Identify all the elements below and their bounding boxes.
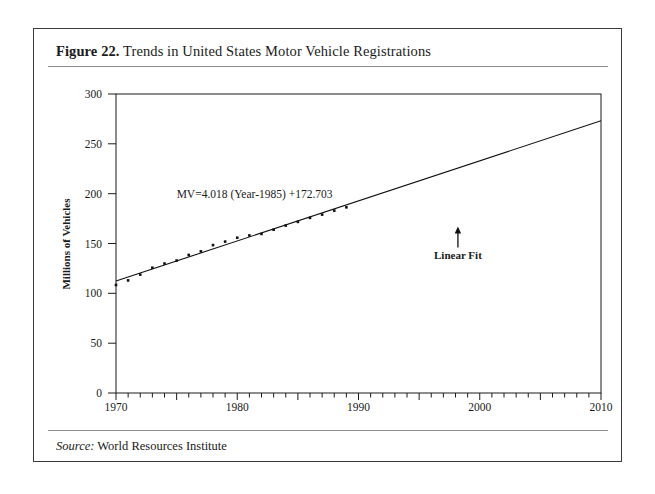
- data-point: [200, 250, 203, 253]
- y-tick-label-250: 250: [85, 138, 103, 150]
- linear-fit-annotation: Linear Fit: [434, 227, 482, 262]
- y-tick-label-300: 300: [85, 88, 103, 100]
- x-tick-label-1990: 1990: [347, 401, 370, 413]
- regression-equation-label: MV=4.018 (Year-1985) +172.703: [177, 188, 333, 201]
- y-tick-label-100: 100: [85, 287, 103, 299]
- x-tick-label-1980: 1980: [226, 401, 249, 413]
- data-point: [224, 240, 227, 243]
- data-point: [236, 236, 239, 239]
- y-tick-label-50: 50: [91, 337, 103, 349]
- x-tick-label-2010: 2010: [590, 401, 613, 413]
- data-point: [345, 206, 348, 209]
- data-point: [321, 213, 324, 216]
- data-point: [151, 266, 154, 269]
- data-point: [115, 284, 118, 287]
- y-tick-label-150: 150: [85, 238, 103, 250]
- data-point: [139, 273, 142, 276]
- data-point: [260, 233, 263, 236]
- arrowhead-icon: [455, 227, 461, 234]
- data-point: [333, 209, 336, 212]
- data-point: [284, 224, 287, 227]
- x-tick-label-1970: 1970: [105, 401, 128, 413]
- source-label: Source:: [56, 439, 94, 453]
- data-point: [175, 259, 178, 262]
- x-axis-tick-labels: 1970 1980 1990 2000 2010: [105, 401, 613, 413]
- y-tick-label-200: 200: [85, 188, 103, 200]
- data-point: [309, 217, 312, 220]
- data-point-group: [115, 206, 348, 286]
- source-text: World Resources Institute: [94, 439, 226, 453]
- x-axis-ticks: [116, 393, 601, 400]
- x-tick-label-2000: 2000: [468, 401, 491, 413]
- y-tick-label-0: 0: [96, 387, 102, 399]
- data-point: [297, 221, 300, 224]
- data-point: [187, 254, 190, 257]
- data-point: [212, 244, 215, 247]
- registrations-scatter-chart: Millions of Vehicles 300 250 200 150 100…: [34, 29, 623, 463]
- plot-frame: [116, 94, 601, 393]
- data-point: [248, 234, 251, 237]
- source-divider: [48, 430, 608, 431]
- data-point: [272, 228, 275, 231]
- y-axis-title: Millions of Vehicles: [60, 198, 72, 290]
- linear-fit-line: [116, 121, 601, 281]
- y-axis-ticks: 300 250 200 150 100 50 0: [85, 88, 116, 399]
- figure-source: Source: World Resources Institute: [56, 439, 227, 454]
- chart-plot-area: Millions of Vehicles 300 250 200 150 100…: [34, 29, 623, 463]
- data-point: [163, 262, 166, 265]
- figure-card: Figure 22. Trends in United States Motor…: [33, 28, 622, 462]
- linear-fit-label: Linear Fit: [434, 249, 482, 261]
- data-point: [127, 279, 130, 282]
